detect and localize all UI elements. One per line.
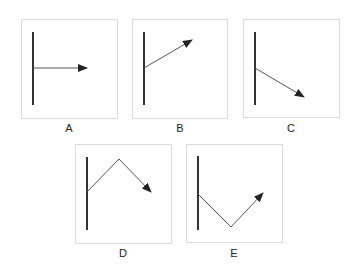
- panel-e: E: [187, 145, 283, 260]
- panel-label: C: [287, 122, 295, 134]
- panel-label: D: [119, 247, 127, 259]
- panel-frame: [244, 20, 340, 118]
- panel-frame: [133, 20, 228, 119]
- panel-frame: [22, 20, 118, 119]
- panel-a: A: [22, 20, 118, 135]
- panel-label: A: [65, 122, 73, 134]
- panel-label: E: [230, 247, 237, 259]
- panel-frame: [187, 145, 283, 243]
- panel-label: B: [176, 122, 183, 134]
- panel-frame: [76, 145, 172, 244]
- panel-c: C: [244, 20, 340, 135]
- panel-b: B: [133, 20, 228, 135]
- panel-d: D: [76, 145, 172, 260]
- diagram-canvas: ABCDE: [0, 0, 357, 273]
